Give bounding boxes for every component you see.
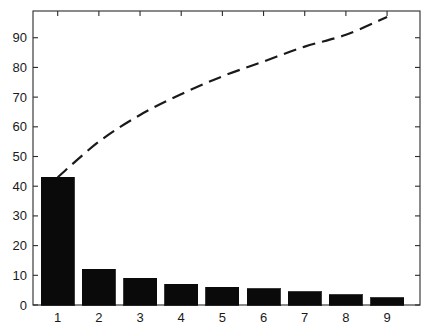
pareto-chart-figure: 0102030405060708090 123456789 — [0, 0, 432, 333]
y-axis-tick-label: 80 — [13, 60, 27, 75]
x-axis-tick-label: 2 — [95, 310, 102, 325]
x-axis-tick-label: 6 — [260, 310, 267, 325]
x-axis-tick-label: 5 — [219, 310, 226, 325]
bar — [371, 298, 404, 305]
bar — [329, 295, 362, 305]
y-axis-tick-label: 50 — [13, 149, 27, 164]
bar — [288, 292, 321, 305]
y-axis-tick-label: 70 — [13, 90, 27, 105]
bar — [206, 287, 239, 305]
y-axis-tick-label: 20 — [13, 238, 27, 253]
bar — [41, 177, 74, 305]
x-axis-tick-label: 8 — [342, 310, 349, 325]
y-axis-tick-label: 0 — [20, 298, 27, 313]
bar — [124, 278, 157, 305]
x-axis-tick-label: 3 — [136, 310, 143, 325]
x-axis-tick-label: 4 — [178, 310, 185, 325]
y-axis-tick-label: 90 — [13, 30, 27, 45]
x-axis-tick-label: 7 — [301, 310, 308, 325]
y-axis-tick-label: 30 — [13, 208, 27, 223]
y-axis-tick-label: 60 — [13, 119, 27, 134]
bar — [82, 269, 115, 305]
x-axis-tick-label: 1 — [54, 310, 61, 325]
x-axis-tick-label: 9 — [383, 310, 390, 325]
chart-canvas: 0102030405060708090 123456789 — [0, 0, 432, 333]
y-axis-tick-label: 10 — [13, 268, 27, 283]
bar — [165, 284, 198, 305]
y-axis-tick-label: 40 — [13, 179, 27, 194]
bar — [247, 289, 280, 305]
